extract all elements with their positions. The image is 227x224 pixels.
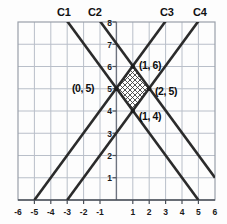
graph-figure: C1 C2 C3 C4 (0, 5) (1, 6) (2, 5) (1, 4) … (0, 0, 227, 224)
y-tick-1: 1 (100, 173, 112, 183)
x-tick-2: 2 (142, 207, 156, 217)
x-tick-minus-1: -1 (93, 207, 107, 217)
curve-label-c3: C3 (160, 6, 173, 18)
curve-label-c2: C2 (88, 6, 101, 18)
vertex-1-4 (131, 109, 135, 113)
point-label-1-6: (1, 6) (139, 59, 161, 71)
coordinate-plane (0, 0, 227, 224)
x-tick-1: 1 (126, 207, 140, 217)
y-tick-5: 5 (100, 84, 112, 94)
curve-label-c4: C4 (193, 6, 206, 18)
point-label-0-5: (0, 5) (72, 82, 94, 94)
y-tick-4: 4 (100, 106, 112, 116)
x-tick-minus-2: -2 (77, 207, 91, 217)
point-label-1-4: (1, 4) (139, 110, 161, 122)
x-tick-6: 6 (208, 207, 222, 217)
vertex-2-5 (147, 87, 151, 91)
x-tick-minus-5: -5 (27, 207, 41, 217)
x-tick-3: 3 (159, 207, 173, 217)
x-tick-minus-6: -6 (11, 207, 25, 217)
curve-label-c1: C1 (57, 6, 70, 18)
vertex-1-6 (131, 64, 135, 68)
y-tick-8: 8 (100, 18, 112, 28)
point-label-2-5: (2, 5) (155, 85, 177, 97)
x-tick-4: 4 (175, 207, 189, 217)
x-tick-minus-4: -4 (44, 207, 58, 217)
y-tick-6: 6 (100, 62, 112, 72)
x-tick-5: 5 (191, 207, 205, 217)
y-tick-3: 3 (100, 129, 112, 139)
x-tick-minus-3: -3 (60, 207, 74, 217)
y-tick-7: 7 (100, 40, 112, 50)
vertex-0-5 (114, 87, 118, 91)
y-tick-2: 2 (100, 151, 112, 161)
